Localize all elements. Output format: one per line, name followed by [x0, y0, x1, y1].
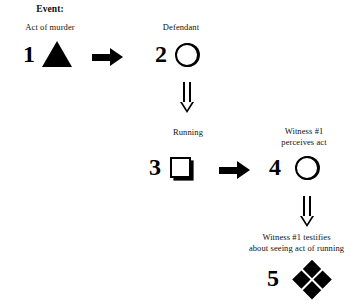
node-3-label: Running — [150, 127, 226, 138]
connector-4-to-5-arrow-down — [300, 196, 314, 228]
node-1-label: Act of murder — [6, 22, 94, 33]
node-5-shape-quad-diamond — [297, 266, 329, 298]
node-3-shape-square — [170, 157, 191, 178]
event-causal-chain-diagram: Event: Act of murder 1 Defendant 2 Runni… — [0, 0, 360, 307]
connector-3-to-4-arrow-right — [219, 161, 252, 179]
node-5-number: 5 — [264, 266, 282, 290]
node-4-label: Witness #1 perceives act — [259, 126, 349, 147]
node-5-label: Witness #1 testifies about seeing act of… — [233, 232, 360, 253]
node-2-number: 2 — [152, 42, 170, 66]
node-3-number: 3 — [146, 155, 164, 179]
node-1-number: 1 — [20, 42, 38, 66]
connector-1-to-2-arrow-right — [92, 48, 125, 66]
node-4-shape-circle — [295, 156, 319, 180]
diagram-title: Event: — [8, 4, 92, 15]
node-2-shape-circle — [175, 43, 199, 67]
node-2-label: Defendant — [140, 22, 222, 33]
node-1-shape-triangle — [42, 41, 72, 67]
node-4-number: 4 — [266, 155, 284, 179]
connector-2-to-3-arrow-down — [180, 82, 194, 114]
